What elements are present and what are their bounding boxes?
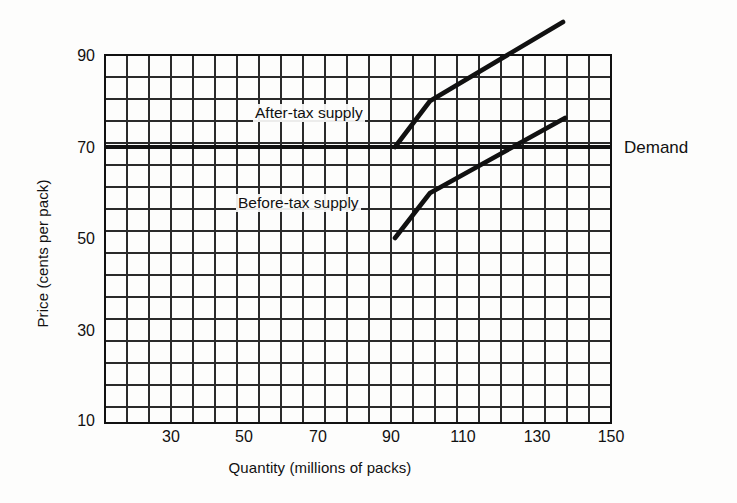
x-tick-label-50: 50 xyxy=(222,428,266,446)
x-axis-title: Quantity (millions of packs) xyxy=(0,459,640,476)
supply-demand-chart: 30 50 70 90 110 130 150 90 70 50 30 10 Q… xyxy=(0,0,737,503)
x-tick-label-130: 130 xyxy=(515,428,559,446)
before-tax-supply-curve xyxy=(395,118,565,238)
y-tick-label-10: 10 xyxy=(55,412,95,430)
y-axis-title: Price (cents per pack) xyxy=(34,134,51,374)
x-tick-label-110: 110 xyxy=(441,428,485,446)
before-tax-supply-label: Before-tax supply xyxy=(236,194,361,212)
x-tick-label-90: 90 xyxy=(369,428,413,446)
y-tick-label-50: 50 xyxy=(55,230,95,248)
x-tick-label-30: 30 xyxy=(149,428,193,446)
x-tick-label-70: 70 xyxy=(296,428,340,446)
y-tick-label-90: 90 xyxy=(55,47,95,65)
demand-label: Demand xyxy=(622,138,690,158)
chart-page: 30 50 70 90 110 130 150 90 70 50 30 10 Q… xyxy=(0,0,737,503)
x-tick-label-150: 150 xyxy=(589,428,633,446)
after-tax-supply-label: After-tax supply xyxy=(253,104,365,122)
y-tick-label-30: 30 xyxy=(55,322,95,340)
y-tick-label-70: 70 xyxy=(55,139,95,157)
